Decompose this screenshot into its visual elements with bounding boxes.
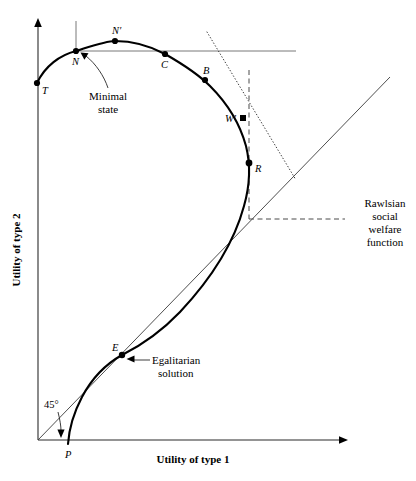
point-B-label: B bbox=[203, 65, 210, 76]
minimal-state-label-line-2: state bbox=[98, 103, 118, 115]
egalitarian-label-line-1: Egalitarian bbox=[152, 354, 201, 366]
point-C-label: C bbox=[161, 59, 169, 70]
rawlsian-label-line-2: social bbox=[372, 210, 398, 222]
minimal-state-annotation: Minimal state bbox=[81, 53, 127, 116]
rawlsian-label-line-1: Rawlsian bbox=[365, 197, 406, 209]
egalitarian-annotation: Egalitarian solution bbox=[127, 354, 201, 379]
rawlsian-label-line-3: welfare bbox=[369, 223, 402, 235]
utility-possibility-frontier-curve bbox=[37, 41, 249, 444]
minimal-state-arrowhead bbox=[81, 53, 89, 60]
angle-45-leader-line bbox=[58, 412, 61, 431]
figure-canvas: T N N′ C B W′ R E P Minimal state bbox=[0, 0, 416, 481]
angle-45-arrowhead bbox=[57, 430, 64, 438]
point-T-label: T bbox=[42, 85, 49, 96]
y-axis-title: Utility of type 2 bbox=[10, 213, 22, 287]
point-N-prime-label: N′ bbox=[111, 25, 122, 36]
minimal-state-leader-line bbox=[86, 56, 108, 88]
utility-possibility-frontier-figure: T N N′ C B W′ R E P Minimal state bbox=[0, 0, 416, 481]
point-W-prime-label: W′ bbox=[225, 113, 237, 124]
rawlsian-label-line-4: function bbox=[367, 236, 404, 248]
dotted-tangent-line bbox=[207, 32, 296, 180]
point-N-label: N bbox=[71, 56, 80, 67]
rawlsian-annotation: Rawlsian social welfare function bbox=[365, 197, 406, 248]
point-E-label: E bbox=[111, 342, 119, 353]
point-B-marker bbox=[202, 77, 208, 83]
egalitarian-arrowhead bbox=[127, 356, 135, 363]
angle-45-annotation: 45° bbox=[44, 399, 65, 438]
forty-five-degree-ray bbox=[38, 77, 390, 440]
point-P-label: P bbox=[64, 449, 72, 460]
x-axis-title: Utility of type 1 bbox=[156, 453, 229, 465]
point-E-marker bbox=[119, 352, 125, 358]
frontier-points-group: T N N′ C B W′ R E P bbox=[34, 25, 262, 460]
point-W-prime-marker bbox=[240, 115, 246, 121]
minimal-state-label-line-1: Minimal bbox=[89, 90, 127, 102]
point-R-marker bbox=[246, 160, 253, 167]
point-N-marker bbox=[73, 48, 79, 54]
point-T-marker bbox=[34, 80, 40, 86]
point-C-marker bbox=[162, 51, 168, 57]
y-axis-arrowhead bbox=[34, 18, 42, 27]
x-axis-arrowhead bbox=[339, 436, 348, 444]
point-R-label: R bbox=[254, 163, 262, 174]
angle-45-label: 45° bbox=[44, 399, 59, 410]
axes-group bbox=[34, 18, 348, 444]
point-N-prime-marker bbox=[112, 38, 118, 44]
egalitarian-label-line-2: solution bbox=[158, 367, 194, 379]
